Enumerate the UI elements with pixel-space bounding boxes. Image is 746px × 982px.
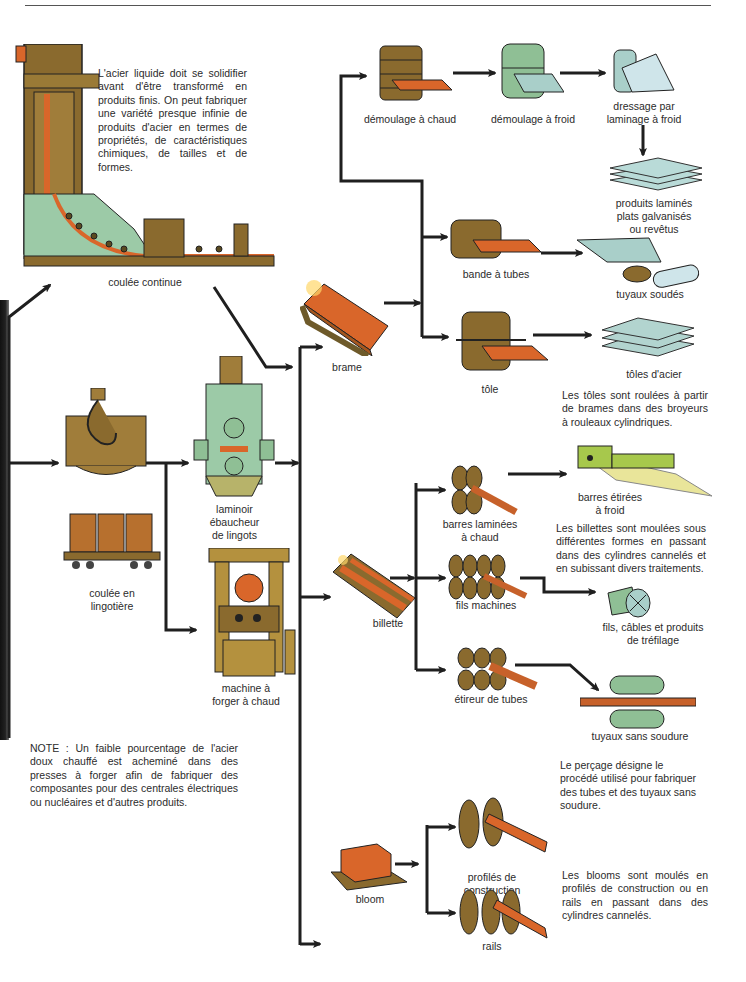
note-percage: Le perçage désigne le procédé utilisé po… [560,759,700,813]
temper-mill-icon [612,48,676,96]
steel-plates-icon [598,314,698,362]
label-tuyaux-sans-soudure: tuyaux sans soudure [580,730,700,743]
label-coulee-lingotiere: coulée en lingotière [56,587,168,613]
structural-section-mill-icon [455,796,549,856]
label-fils-machines: fils machines [446,599,526,612]
slab-icon [300,280,390,356]
label-demoulage-chaud: démoulage à chaud [360,113,460,126]
label-tuyaux-soudes: tuyaux soudés [600,288,700,301]
plate-mill-icon [452,310,548,372]
label-toles-acier: tôles d'acier [604,368,704,381]
note-billettes: Les billettes sont moulées sous différen… [556,522,706,576]
intro-paragraph: L'acier liquide doit se solidifier avant… [98,67,247,174]
label-bande-tubes: bande à tubes [446,268,546,281]
tube-drawing-mill-icon [452,646,540,696]
label-dressage: dressage par laminage à froid [598,100,690,126]
ingot-blooming-mill-icon [192,356,277,498]
label-bloom: bloom [340,893,400,906]
skelp-mill-icon [441,218,543,264]
wire-coil-icon [606,583,654,621]
bar-mill-icon [446,464,522,516]
forging-press-icon [205,548,297,678]
label-laminoir: laminoir ébaucheur de lingots [192,503,277,542]
label-barres-etirees: barres étirées à froid [568,491,652,517]
label-fils-cables: fils, câbles et produits de tréfilage [586,621,720,647]
note-toles: Les tôles sont roulées à partir de brame… [562,389,708,429]
label-produits-lamines: produits laminés plats galvanisés ou rev… [604,197,704,236]
seamless-pipe-icon [580,674,696,732]
label-demoulage-froid: démoulage à froid [488,113,578,126]
label-etireur: étireur de tubes [436,693,546,706]
rail-mill-icon [457,886,549,942]
label-rails: rails [462,940,522,953]
page-edge-shadow [0,300,9,740]
ingot-casting-ladle-icon [56,388,168,578]
hot-strip-mill-icon [372,44,452,104]
bloom-icon [331,842,407,892]
label-coulee-continue: coulée continue [70,276,220,289]
label-tole: tôle [465,383,515,396]
note-blooms: Les blooms sont moulés en profilés de co… [562,869,708,923]
label-barres-laminees: barres laminées à chaud [430,518,530,544]
page-top-rule [25,5,711,6]
label-machine-forger: machine à forger à chaud [196,682,296,708]
coated-flat-products-icon [608,156,704,194]
label-billette: billette [358,617,418,630]
rod-mill-icon [446,552,530,602]
note-forge: NOTE : Un faible pourcentage de l'acier … [30,742,238,809]
label-brame: brame [322,361,372,374]
cold-strip-mill-icon [496,42,564,102]
billet-icon [331,552,417,622]
welded-pipe-icon [577,234,703,292]
